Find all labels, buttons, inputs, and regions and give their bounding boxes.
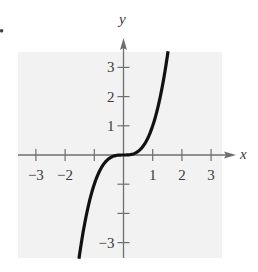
x-tick-label: 1 — [149, 167, 157, 183]
x-tick-label: −2 — [57, 167, 73, 183]
x-tick-label: 2 — [178, 167, 186, 183]
y-tick-label: 3 — [107, 59, 115, 75]
y-axis-label: y — [117, 11, 126, 27]
x-axis-label: x — [239, 146, 247, 162]
x-tick-label: 3 — [207, 167, 215, 183]
bullet-marker: • — [0, 24, 4, 39]
y-tick-label: 1 — [107, 118, 115, 134]
y-tick-label: 2 — [107, 89, 115, 105]
x-tick-label: −3 — [28, 167, 44, 183]
y-tick-label: −3 — [99, 235, 115, 251]
function-graph: • −3−2123−3123 y x — [0, 0, 258, 272]
